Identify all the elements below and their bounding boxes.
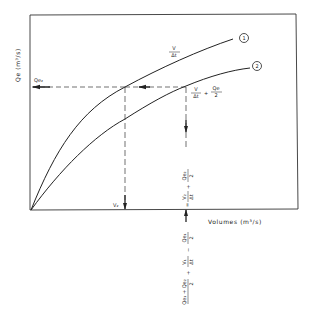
curve-1-label: V Δt [169, 45, 180, 58]
svg-text:2: 2 [188, 282, 194, 285]
annotation-lower: Qe₁ + Qe₂ 2 + V₁ Δt − Qe₁ 2 [181, 232, 194, 305]
svg-text:Δt: Δt [193, 93, 198, 99]
svg-text:1: 1 [242, 35, 245, 41]
y-axis-label: Qe (m³/s) [14, 48, 21, 82]
svg-text:V: V [194, 86, 198, 92]
svg-text:Qe₂: Qe₂ [181, 171, 187, 180]
qe2-label: Qe₂ [34, 77, 43, 83]
svg-text:Qe: Qe [212, 85, 219, 91]
curve-2-marker: 2 [253, 62, 262, 71]
curve-2-label: V Δt + Qe 2 [191, 85, 222, 99]
annotation-upper: = V₂ Δt + Qe₂ 2 [181, 169, 194, 207]
svg-text:Qe₁: Qe₁ [181, 233, 187, 242]
plot-frame [30, 14, 298, 210]
routing-diagram: 1 2 V Δt V Δt + Qe 2 Qe (m³/s) Volumes (… [0, 0, 312, 321]
svg-text:=: = [184, 203, 190, 207]
svg-text:Δt: Δt [188, 194, 194, 199]
x-axis-label: Volumes (m³/s) [208, 218, 262, 225]
svg-text:2: 2 [188, 236, 194, 239]
v2-label: V₂ [113, 202, 118, 208]
curve-1-marker: 1 [240, 34, 249, 43]
svg-text:+: + [204, 90, 208, 96]
svg-text:V₂: V₂ [181, 194, 187, 199]
svg-text:2: 2 [214, 92, 217, 98]
svg-text:+: + [185, 185, 191, 189]
svg-text:Qe₁ + Qe₂: Qe₁ + Qe₂ [181, 279, 187, 304]
svg-text:V: V [172, 45, 176, 51]
svg-text:2: 2 [188, 174, 194, 177]
svg-text:−: − [185, 248, 191, 252]
svg-text:+: + [185, 271, 191, 275]
x-axis [30, 209, 298, 210]
svg-text:2: 2 [255, 63, 258, 69]
svg-text:Δt: Δt [171, 52, 176, 58]
curve-1 [31, 39, 233, 210]
svg-text:V₁: V₁ [181, 259, 187, 264]
svg-text:Δt: Δt [188, 259, 194, 264]
